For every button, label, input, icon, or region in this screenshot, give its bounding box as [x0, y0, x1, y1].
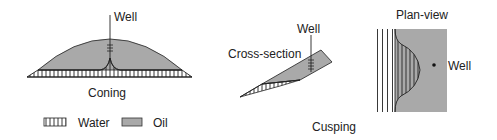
plan-view-well-label: Well	[448, 59, 471, 73]
legend: Water Oil	[44, 116, 168, 130]
water-zone	[376, 29, 395, 112]
legend-oil-label: Oil	[153, 116, 168, 130]
coning-title: Coning	[88, 86, 126, 100]
legend-water-label: Water	[78, 116, 110, 130]
oil-swatch-icon	[122, 118, 142, 126]
cusping-title: Cusping	[312, 120, 356, 134]
cross-section-diagram: Well Cross-section	[228, 22, 332, 97]
diagram-canvas: Well Coning Water Oil Well Cross-section	[0, 0, 497, 140]
coning-well-label: Well	[114, 10, 137, 24]
cross-section-label: Cross-section	[228, 47, 301, 61]
plan-view-label: Plan-view	[396, 8, 448, 22]
water-swatch-icon	[44, 118, 66, 126]
coning-diagram: Well Coning	[27, 10, 192, 100]
cross-section-well-label: Well	[297, 22, 320, 36]
well-dot-icon	[432, 63, 436, 67]
plan-view-diagram: Well Plan-view	[376, 8, 471, 112]
